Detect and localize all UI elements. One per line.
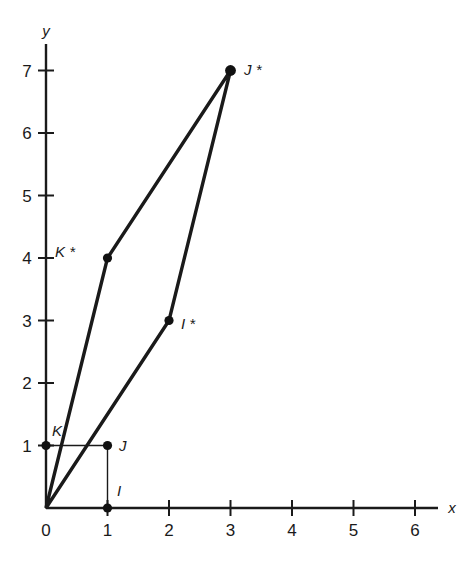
y-tick-label-6: 6 (22, 124, 31, 143)
x-axis-label: x (447, 499, 456, 516)
x-tick-label-5: 5 (349, 521, 358, 540)
marker-K-star (103, 253, 112, 262)
y-tick-label-1: 1 (22, 437, 31, 456)
marker-J (103, 441, 112, 450)
point-label-I: I (117, 482, 121, 499)
x-tick-label-4: 4 (287, 521, 296, 540)
point-labels: K J I K * I * J * (52, 61, 263, 499)
point-label-I-star: I * (181, 315, 196, 332)
transformed-parallelogram (46, 71, 231, 509)
y-tick-label-3: 3 (22, 312, 31, 331)
point-label-K-star: K * (55, 243, 76, 260)
x-tick-label-6: 6 (410, 521, 419, 540)
y-tick-label-2: 2 (22, 374, 31, 393)
x-tick-label-3: 3 (226, 521, 235, 540)
y-tick-label-4: 4 (22, 249, 31, 268)
x-tick-label-0: 0 (41, 521, 50, 540)
y-tick-labels: 1 2 3 4 5 6 7 (22, 62, 31, 456)
x-tick-label-1: 1 (103, 521, 112, 540)
y-tick-label-5: 5 (22, 187, 31, 206)
coordinate-plot: 0 1 2 3 4 5 6 1 2 3 4 5 6 7 x y (0, 0, 476, 566)
figure-canvas: 0 1 2 3 4 5 6 1 2 3 4 5 6 7 x y (0, 0, 476, 566)
marker-I (103, 503, 112, 512)
point-label-J: J (118, 437, 127, 454)
marker-J-star (225, 65, 236, 76)
y-axis-label: y (41, 22, 51, 39)
marker-I-star (164, 316, 173, 325)
point-label-J-star: J * (243, 61, 263, 78)
y-tick-label-7: 7 (22, 62, 31, 81)
marker-K (41, 441, 50, 450)
point-label-K: K (52, 422, 63, 439)
x-tick-labels: 0 1 2 3 4 5 6 (41, 521, 419, 540)
x-tick-label-2: 2 (164, 521, 173, 540)
